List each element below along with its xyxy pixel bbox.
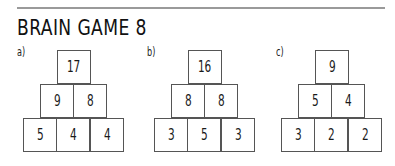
pyramid-cell-bottom-right: 2 (348, 118, 382, 152)
puzzle-label: c) (276, 45, 284, 59)
pyramid-cell-middle-right: 8 (204, 84, 238, 118)
page-title: BRAIN GAME 8 (17, 15, 147, 40)
puzzle-b: b) 16 8 8 3 5 3 (147, 45, 272, 160)
pyramid-cell-top: 17 (57, 50, 91, 84)
pyramid-cell-bottom-middle: 5 (187, 118, 221, 152)
puzzle-label: a) (17, 45, 25, 59)
puzzle-label: b) (147, 45, 155, 59)
pyramid-cell-bottom-right: 3 (221, 118, 255, 152)
pyramid-cell-middle-left: 5 (298, 84, 332, 118)
pyramid-cell-bottom-left: 3 (281, 118, 315, 152)
pyramid-cell-bottom-middle: 2 (314, 118, 348, 152)
pyramid-cell-bottom-left: 5 (23, 118, 57, 152)
pyramid-cell-bottom-right: 4 (90, 118, 124, 152)
pyramid-cell-middle-left: 9 (40, 84, 74, 118)
pyramid-cell-top: 16 (188, 50, 222, 84)
puzzle-a: a) 17 9 8 5 4 4 (17, 45, 142, 160)
puzzle-c: c) 9 5 4 3 2 2 (276, 45, 395, 160)
pyramid-cell-middle-right: 8 (73, 84, 107, 118)
pyramid-cell-bottom-left: 3 (154, 118, 188, 152)
pyramid-cell-middle-right: 4 (331, 84, 365, 118)
pyramid-cell-middle-left: 8 (171, 84, 205, 118)
header-rule (17, 7, 385, 9)
pyramid-cell-top: 9 (315, 50, 349, 84)
pyramid-cell-bottom-middle: 4 (56, 118, 90, 152)
